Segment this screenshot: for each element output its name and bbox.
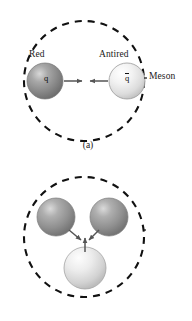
- panel-a-caption: (a): [76, 141, 100, 151]
- antiquark-symbol: q: [118, 73, 136, 83]
- panel-baryon: Red Blue Green Baryon (b): [0, 160, 192, 321]
- quark-sphere-green: [64, 247, 106, 289]
- color-charge-label-antired: Antired: [99, 50, 129, 60]
- panel-b-graphics: [0, 160, 192, 321]
- force-arrow-red: [69, 230, 81, 240]
- quark-sphere-blue: [90, 198, 128, 236]
- force-arrow-blue: [89, 230, 99, 240]
- quark-symbol: q: [37, 74, 55, 83]
- quark-confinement-figure: Red Antired Meson q q (a): [0, 0, 192, 321]
- antiquark-symbol-text: q: [125, 73, 129, 83]
- panel-meson: Red Antired Meson q q (a): [0, 0, 192, 160]
- color-charge-label-red-meson: Red: [29, 50, 45, 60]
- meson-label: Meson: [149, 72, 175, 82]
